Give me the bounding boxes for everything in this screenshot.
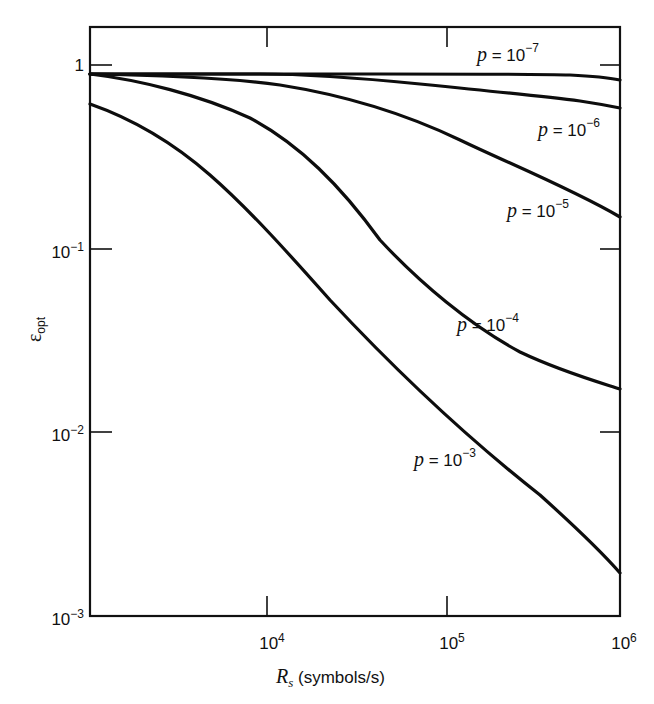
y-tick-exp: −1 (70, 240, 84, 254)
curve-label-exp: −5 (555, 197, 569, 211)
x-tick-base: 10 (439, 634, 458, 653)
y-axis-symbol: ε (23, 334, 45, 342)
curve-label-p-1e-3: p = 10−3 (414, 449, 476, 469)
p-symbol: p (414, 448, 424, 470)
x-tick-label-1e4: 104 (259, 632, 285, 652)
y-axis-subscript: opt (34, 317, 48, 334)
curve-label-p-1e-6: p = 10−6 (538, 119, 600, 139)
x-tick-exp: 4 (278, 631, 285, 645)
y-tick-exp: −2 (70, 423, 84, 437)
y-tick-label-0.1: 10−1 (34, 241, 84, 261)
y-axis-label: εopt (23, 317, 46, 342)
curve-label-eq: = 10 (487, 46, 525, 65)
p-symbol: p (538, 118, 548, 140)
curve-label-exp: −7 (525, 41, 539, 55)
x-tick-label-1e5: 105 (439, 632, 465, 652)
x-axis-label: Rs (symbols/s) (276, 665, 385, 688)
y-tick-label-0.001: 10−3 (34, 608, 84, 628)
y-tick-base: 10 (51, 426, 70, 445)
y-tick-exp: −3 (70, 607, 84, 621)
curve-label-p-1e-7: p = 10−7 (477, 44, 539, 64)
curve-label-exp: −4 (505, 311, 519, 325)
x-tick-label-1e6: 106 (611, 632, 637, 652)
x-tick-base: 10 (611, 634, 630, 653)
x-axis-symbol: R (276, 665, 288, 687)
curve-label-eq: = 10 (424, 451, 462, 470)
axis-frame (90, 27, 620, 616)
x-axis-unit: (symbols/s) (298, 668, 385, 687)
x-tick-base: 10 (259, 634, 278, 653)
curve-label-eq: = 10 (467, 316, 505, 335)
curve-label-exp: −6 (586, 116, 600, 130)
y-tick-base: 1 (75, 56, 84, 75)
y-tick-base: 10 (51, 610, 70, 629)
curve-label-exp: −3 (462, 446, 476, 460)
x-tick-exp: 5 (458, 631, 465, 645)
x-tick-exp: 6 (630, 631, 637, 645)
p-symbol: p (507, 199, 517, 221)
chart-plot-area (0, 0, 654, 704)
p-symbol: p (457, 313, 467, 335)
y-tick-label-1: 1 (34, 57, 84, 74)
x-axis-subscript: s (288, 675, 293, 690)
curve-label-p-1e-4: p = 10−4 (457, 314, 519, 334)
y-tick-label-0.01: 10−2 (34, 424, 84, 444)
curve-label-eq: = 10 (517, 202, 555, 221)
curve-p-1e-3 (90, 104, 620, 573)
y-tick-base: 10 (51, 243, 70, 262)
p-symbol: p (477, 43, 487, 65)
curve-label-eq: = 10 (548, 121, 586, 140)
curve-label-p-1e-5: p = 10−5 (507, 200, 569, 220)
